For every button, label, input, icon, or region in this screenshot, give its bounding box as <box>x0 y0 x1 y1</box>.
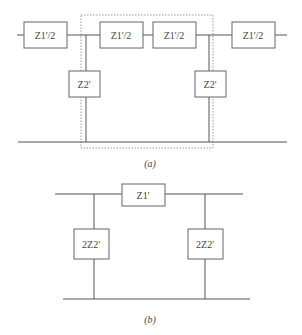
shunt-impedance-label: Z2' <box>204 79 217 90</box>
caption-b: (b) <box>144 314 156 325</box>
series-impedance-label: Z1'/2 <box>111 30 132 41</box>
series-impedance-label: Z1'/2 <box>243 30 264 41</box>
shunt-impedance-label: 2Z2' <box>82 239 100 250</box>
series-impedance-label: Z1' <box>137 190 150 201</box>
caption-a: (a) <box>144 158 156 169</box>
series-impedance-label: Z1'/2 <box>164 30 185 41</box>
series-impedance-label: Z1'/2 <box>35 30 56 41</box>
shunt-impedance-label: 2Z2' <box>196 239 214 250</box>
shunt-impedance-label: Z2' <box>78 79 91 90</box>
